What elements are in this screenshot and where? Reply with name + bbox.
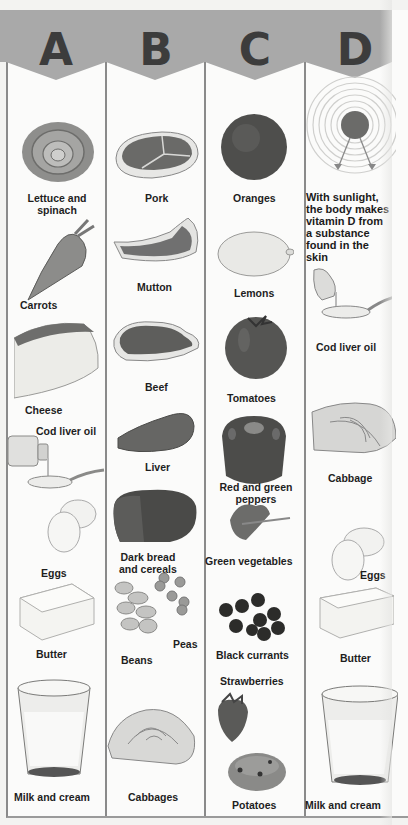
greens-icon [226, 500, 292, 544]
liver-icon [116, 408, 196, 456]
label-black-currants: Black currants [216, 649, 289, 661]
label-liver: Liver [145, 461, 170, 473]
bread-icon [110, 486, 200, 546]
beans-peas-icon [114, 572, 198, 642]
column-b-letter: B [106, 24, 206, 75]
label-cabbages: Cabbages [128, 791, 178, 803]
label-lemons: Lemons [234, 287, 274, 299]
label-cod-liver-oil-d: Cod liver oil [316, 341, 376, 353]
mutton-icon [112, 218, 200, 268]
label-pork: Pork [145, 192, 168, 204]
cheese-icon [14, 320, 100, 400]
label-milk-cream-a: Milk and cream [14, 791, 90, 803]
column-a-letter: A [6, 24, 106, 75]
page-edge-shadow [380, 0, 392, 825]
label-peas: Peas [173, 638, 198, 650]
label-potatoes: Potatoes [232, 799, 276, 811]
lettuce-icon [18, 118, 98, 186]
label-milk-cream-d: Milk and cream [305, 799, 381, 811]
carrot-icon [20, 218, 100, 303]
label-beef: Beef [145, 381, 168, 393]
label-lettuce-spinach: Lettuce and spinach [8, 192, 106, 216]
strawberry-icon [212, 690, 252, 744]
butter-icon [18, 580, 96, 642]
lemon-icon [214, 228, 294, 280]
potato-icon [226, 750, 288, 792]
column-divider-bc [204, 62, 206, 816]
label-cheese: Cheese [25, 404, 62, 416]
label-strawberries: Strawberries [220, 675, 284, 687]
label-mutton: Mutton [137, 281, 172, 293]
label-oranges: Oranges [233, 192, 276, 204]
milk-glass-icon [14, 678, 94, 778]
column-c-letter: C [205, 24, 305, 75]
label-eggs-a: Eggs [41, 567, 67, 579]
cod-liver-oil-icon [6, 432, 106, 492]
tomato-icon [222, 310, 290, 380]
orange-icon [220, 112, 288, 182]
pepper-icon [218, 414, 290, 490]
black-currants-icon [216, 592, 292, 644]
label-tomatoes: Tomatoes [227, 392, 276, 404]
label-carrots: Carrots [20, 299, 57, 311]
beef-icon [112, 318, 200, 368]
label-green-vegetables: Green vegetables [205, 555, 293, 567]
label-cabbage-d: Cabbage [328, 472, 372, 484]
label-butter-d: Butter [340, 652, 371, 664]
eggs-icon [42, 496, 102, 556]
cabbage-icon [106, 706, 198, 768]
pork-icon [112, 128, 200, 182]
label-butter-a: Butter [36, 648, 67, 660]
label-beans: Beans [121, 654, 153, 666]
